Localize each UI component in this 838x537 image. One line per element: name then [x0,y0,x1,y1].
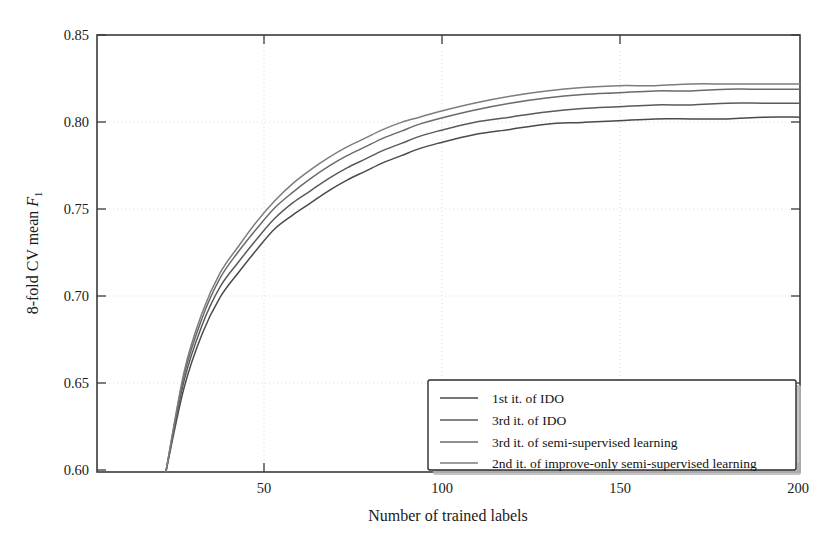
y-tick-label: 0.70 [64,288,89,304]
y-axis-title-symbol: F [24,197,41,208]
y-axis-title: 8-fold CV mean F1 [24,192,44,315]
legend-label: 2nd it. of improve-only semi-supervised … [492,456,757,471]
x-tick-label: 150 [609,480,631,496]
y-tick-label: 0.80 [64,114,89,130]
legend-label: 1st it. of IDO [492,391,564,406]
x-tick-label: 100 [431,480,453,496]
x-axis-title: Number of trained labels [368,507,528,524]
y-tick-labels: 0.85 0.80 0.75 0.70 0.65 0.60 [64,27,89,478]
y-axis-title-prefix: 8-fold CV mean [24,207,41,315]
y-tick-label: 0.85 [64,27,89,43]
y-tick-label: 0.60 [64,462,89,478]
y-axis-title-subscript: 1 [33,192,44,197]
x-tick-labels: 50 100 150 200 [257,480,809,496]
legend-label: 3rd it. of semi-supervised learning [492,435,678,450]
x-tick-label: 200 [787,480,809,496]
legend-label: 3rd it. of IDO [492,413,566,428]
y-tick-label: 0.75 [64,201,89,217]
legend: 1st it. of IDO 3rd it. of IDO 3rd it. of… [428,380,801,475]
svg-text:8-fold CV mean F1: 8-fold CV mean F1 [24,192,44,315]
chart-svg: 0.85 0.80 0.75 0.70 0.65 0.60 50 100 150… [0,0,838,537]
chart-figure: 0.85 0.80 0.75 0.70 0.65 0.60 50 100 150… [0,0,838,537]
x-tick-label: 50 [257,480,272,496]
y-tick-label: 0.65 [64,375,89,391]
